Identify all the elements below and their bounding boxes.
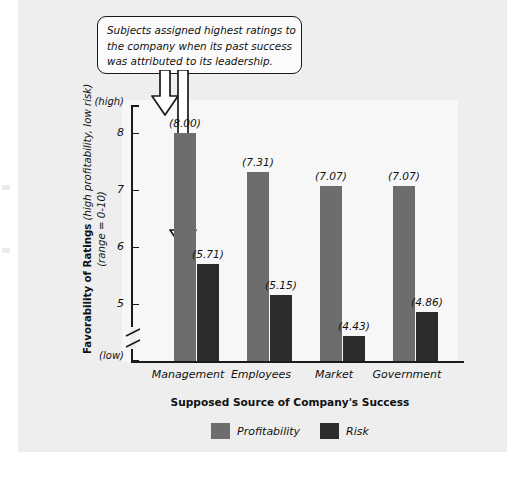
figure-panel: Subjects assigned highest ratings to the… — [18, 0, 507, 452]
y-tick-6 — [132, 247, 139, 248]
y-axis-title-main: Favorability of Ratings — [82, 224, 93, 354]
y-axis-title-sub1: (high profitability, low risk) — [82, 84, 93, 221]
annotation-line: was attributed to its leadership. — [107, 54, 292, 70]
bar-employees-profitability — [247, 172, 269, 361]
bar-value-label-market-profitability: (7.07) — [306, 170, 356, 182]
y-axis-title-sub2: (range = 0-10) — [96, 191, 107, 267]
bar-government-profitability — [393, 186, 415, 361]
page-edge-mark — [2, 185, 10, 190]
y-axis-break-marks — [125, 327, 141, 349]
bar-market-risk — [343, 336, 365, 361]
legend-label-risk: Risk — [346, 425, 369, 438]
bar-value-label-management-risk: (5.71) — [183, 248, 233, 260]
y-tick-7 — [132, 190, 139, 191]
page-edge-mark — [2, 248, 10, 253]
bar-employees-risk — [270, 295, 292, 361]
bar-management-risk — [197, 264, 219, 361]
y-axis-top-cap — [132, 105, 139, 107]
y-axis-line — [131, 105, 133, 362]
bar-value-label-management-profitability: (8.00) — [160, 117, 210, 129]
annotation-callout: Subjects assigned highest ratings to the… — [97, 16, 302, 74]
y-tick-8 — [132, 133, 139, 134]
y-axis-bottom-cap — [132, 360, 139, 362]
annotation-line: Subjects assigned highest ratings to — [107, 23, 292, 39]
legend-item-risk: Risk — [320, 423, 369, 439]
bar-value-label-market-risk: (4.43) — [329, 320, 379, 332]
y-tick-5 — [132, 304, 139, 305]
legend-item-profitability: Profitability — [211, 423, 300, 439]
y-axis-title: Favorability of Ratings (high profitabil… — [81, 104, 109, 354]
legend-label-profitability: Profitability — [237, 425, 300, 438]
bar-value-label-employees-risk: (5.15) — [256, 279, 306, 291]
legend-swatch-profitability — [211, 423, 230, 439]
bar-value-label-government-profitability: (7.07) — [379, 170, 429, 182]
bar-value-label-employees-profitability: (7.31) — [233, 156, 283, 168]
annotation-line: the company when its past success — [107, 39, 292, 55]
legend-swatch-risk — [320, 423, 339, 439]
x-axis-title: Supposed Source of Company's Success — [122, 396, 458, 408]
bar-government-risk — [416, 312, 438, 361]
bar-value-label-government-risk: (4.86) — [402, 296, 452, 308]
chart-legend: Profitability Risk — [122, 423, 458, 439]
category-label-government: Government — [358, 368, 456, 381]
x-axis-line — [131, 361, 464, 363]
bar-market-profitability — [320, 186, 342, 361]
